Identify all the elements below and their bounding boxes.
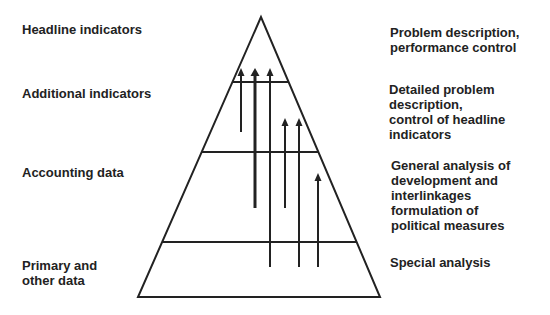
arrow-up-icon	[282, 118, 289, 126]
label-general-analysis: General analysis of development and inte…	[391, 158, 510, 233]
label-additional-indicators: Additional indicators	[22, 86, 151, 101]
label-problem-description: Problem description, performance control	[390, 25, 519, 55]
label-headline-indicators: Headline indicators	[22, 22, 142, 37]
label-detailed-problem-description: Detailed problem description, control of…	[389, 82, 505, 142]
pyramid-outline	[138, 17, 380, 297]
arrow-up-icon	[267, 68, 274, 76]
arrow-up-icon	[296, 118, 303, 126]
arrow-up-icon	[251, 68, 260, 76]
arrow-up-icon	[315, 173, 322, 181]
label-accounting-data: Accounting data	[22, 165, 124, 180]
label-special-analysis: Special analysis	[390, 255, 490, 270]
label-primary-other-data: Primary and other data	[22, 258, 97, 288]
